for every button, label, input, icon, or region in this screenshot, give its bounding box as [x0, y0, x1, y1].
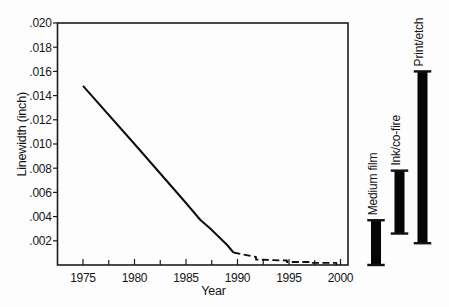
- y-tick-label: .010: [29, 137, 52, 151]
- x-tick-label: 1975: [70, 271, 96, 285]
- y-tick-label: .006: [29, 186, 52, 200]
- range-bar-medium-film: Medium film: [366, 153, 385, 265]
- y-tick-label: .002: [29, 234, 52, 248]
- technology-range-bars: Medium filmInk/co-firePrint/etch: [366, 18, 432, 265]
- data-series: [83, 86, 336, 265]
- linewidth-line-chart: .002.004.006.008.010.012.014.016.018.020…: [0, 0, 449, 307]
- plot-frame: [58, 23, 349, 265]
- range-bar-label: Medium film: [366, 153, 380, 216]
- range-bar-body: [395, 171, 405, 234]
- axis-ticks: .002.004.006.008.010.012.014.016.018.020…: [29, 16, 354, 284]
- x-tick-label: 1995: [276, 271, 302, 285]
- x-tick-label: 1985: [173, 271, 199, 285]
- x-tick-label: 1980: [122, 271, 148, 285]
- y-tick-label: .018: [29, 41, 52, 55]
- x-axis-title: Year: [201, 284, 225, 298]
- range-bar-body: [371, 220, 381, 265]
- linewidth-trend-projected-dashed: [233, 253, 336, 266]
- y-tick-label: .020: [29, 16, 52, 30]
- x-tick-label: 1990: [225, 271, 251, 285]
- figure: .002.004.006.008.010.012.014.016.018.020…: [0, 0, 449, 307]
- range-bar-body: [418, 71, 428, 243]
- y-tick-label: .008: [29, 162, 52, 176]
- y-axis-title: Linewidth (inch): [15, 92, 29, 176]
- range-bar-ink-co-fire: Ink/co-fire: [389, 115, 408, 234]
- linewidth-trend-solid: [83, 86, 233, 253]
- y-tick-label: .012: [29, 113, 52, 127]
- range-bar-label: Print/etch: [412, 18, 426, 67]
- plot-border: [58, 23, 349, 265]
- x-tick-label: 2000: [328, 271, 354, 285]
- range-bar-print-etch: Print/etch: [412, 18, 431, 244]
- range-bar-label: Ink/co-fire: [389, 115, 403, 166]
- y-tick-label: .014: [29, 89, 52, 103]
- y-tick-label: .016: [29, 65, 52, 79]
- y-tick-label: .004: [29, 210, 52, 224]
